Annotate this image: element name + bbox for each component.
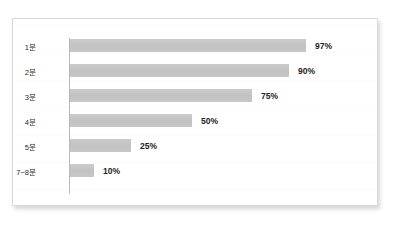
category-label: 5분 [25, 140, 36, 151]
category-label: 4분 [25, 115, 36, 126]
chart-figure: 1분 97% 2분 90% 3분 75% 4분 50% [0, 0, 397, 226]
bar [70, 114, 192, 127]
value-label: 97% [315, 41, 332, 51]
category-label: 1분 [25, 40, 36, 51]
paper-streak [13, 52, 377, 53]
value-label: 90% [298, 66, 315, 76]
paper-streak [13, 25, 377, 26]
paper-streak [13, 162, 377, 163]
bar [70, 139, 131, 152]
bar-row: 1분 97% [13, 39, 377, 52]
value-label: 10% [103, 166, 120, 176]
bar-row: 3분 75% [13, 89, 377, 102]
paper-streak [13, 80, 377, 81]
bar-row: 2분 90% [13, 64, 377, 77]
paper-streak [13, 189, 377, 190]
category-label: 3분 [25, 90, 36, 101]
value-label: 25% [140, 141, 157, 151]
value-label: 75% [261, 91, 278, 101]
bar [70, 64, 289, 77]
value-label: 50% [201, 116, 218, 126]
category-label: 2분 [25, 65, 36, 76]
bar [70, 89, 252, 102]
bar [70, 39, 306, 52]
bar-row: 7~8분 10% [13, 164, 377, 177]
chart-frame: 1분 97% 2분 90% 3분 75% 4분 50% [12, 18, 378, 206]
plot-area: 1분 97% 2분 90% 3분 75% 4분 50% [13, 19, 377, 205]
bar [70, 164, 94, 177]
bar-row: 5분 25% [13, 139, 377, 152]
category-label: 7~8분 [16, 165, 36, 176]
paper-streak [13, 107, 377, 108]
bar-row: 4분 50% [13, 114, 377, 127]
paper-streak [13, 135, 377, 136]
